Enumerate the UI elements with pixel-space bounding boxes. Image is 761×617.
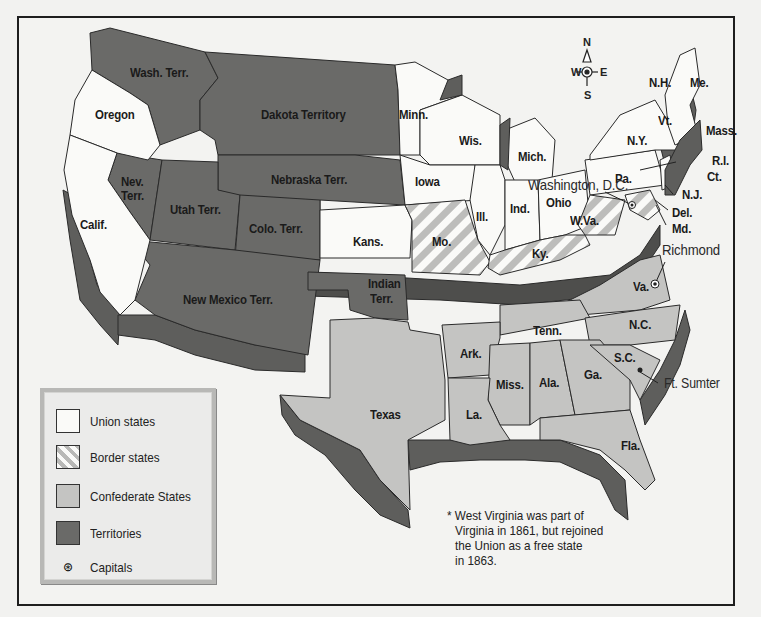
label-ark: Ark.	[460, 347, 482, 361]
label-indian-terr-1: Indian	[368, 277, 401, 291]
callout-washington-dc: Washington, D.C.	[528, 178, 628, 192]
callout-richmond: Richmond	[662, 243, 720, 257]
label-ga: Ga.	[584, 368, 602, 382]
label-mo: Mo.	[432, 235, 451, 249]
label-ct: Ct.	[707, 170, 722, 184]
label-nev-terr-1: Nev.	[121, 175, 144, 189]
label-ky: Ky.	[532, 247, 548, 261]
label-tenn: Tenn.	[533, 324, 562, 338]
label-mass: Mass.	[706, 124, 737, 138]
label-vt: Vt.	[658, 114, 672, 128]
label-indian-terr-2: Terr.	[370, 292, 393, 306]
capital-star-icon: ⊛	[56, 560, 80, 574]
label-wis: Wis.	[459, 134, 482, 148]
label-oregon: Oregon	[95, 108, 135, 122]
label-iowa: Iowa	[415, 175, 440, 189]
label-va: Va.	[633, 280, 649, 294]
label-wash-terr: Wash. Terr.	[130, 66, 188, 80]
compass-e: E	[600, 66, 607, 78]
legend-item-border: Border states	[56, 445, 167, 469]
callout-ft-sumter: Ft. Sumter	[664, 376, 720, 390]
lake-michigan	[500, 118, 510, 170]
label-wva: W.Va.	[570, 214, 599, 228]
label-mich: Mich.	[518, 150, 546, 164]
label-ny: N.Y.	[627, 134, 647, 148]
label-nev-terr-2: Terr.	[121, 189, 144, 203]
compass-w: W	[571, 66, 582, 78]
region-dakota-terr	[200, 52, 400, 155]
label-me: Me.	[690, 76, 709, 90]
map-legend: Union states Border states Confederate S…	[40, 388, 216, 584]
footnote-west-virginia: * West Virginia was part of Virginia in …	[447, 508, 603, 568]
label-miss: Miss.	[496, 378, 524, 392]
compass-n: N	[583, 36, 591, 48]
label-nh: N.H.	[649, 76, 671, 90]
label-kans: Kans.	[353, 235, 383, 249]
label-nebraska-terr: Nebraska Terr.	[271, 173, 347, 187]
legend-item-union: Union states	[56, 409, 162, 433]
label-sc: S.C.	[614, 351, 636, 365]
label-ala: Ala.	[539, 376, 559, 390]
confederate-swatch-icon	[56, 484, 80, 508]
union-swatch-icon	[56, 409, 80, 433]
label-nj: N.J.	[682, 188, 702, 202]
label-nc: N.C.	[629, 318, 651, 332]
label-ill: Ill.	[476, 210, 488, 224]
label-texas: Texas	[370, 408, 401, 422]
label-utah-terr: Utah Terr.	[170, 203, 221, 217]
label-new-mexico-terr: New Mexico Terr.	[183, 293, 273, 307]
label-dakota-terr: Dakota Territory	[261, 108, 346, 122]
legend-item-capitals: ⊛ Capitals	[56, 555, 137, 579]
region-kansas	[320, 205, 412, 258]
legend-item-territories: Territories	[56, 521, 147, 545]
label-minn: Minn.	[399, 108, 428, 122]
compass-s: S	[584, 89, 591, 101]
legend-item-confederate: Confederate States	[56, 484, 202, 508]
label-md: Md.	[672, 222, 691, 236]
region-wisconsin	[420, 95, 500, 165]
label-calif: Calif.	[80, 218, 107, 232]
ft-sumter-marker-icon	[638, 368, 643, 373]
label-ind: Ind.	[510, 202, 530, 216]
label-ohio: Ohio	[546, 196, 571, 210]
label-ri: R.I.	[712, 154, 729, 168]
label-la: La.	[466, 408, 482, 422]
territories-swatch-icon	[56, 521, 80, 545]
label-fla: Fla.	[621, 439, 640, 453]
label-colo-terr: Colo. Terr.	[249, 222, 303, 236]
label-del: Del.	[672, 206, 692, 220]
border-swatch-icon	[56, 445, 80, 469]
